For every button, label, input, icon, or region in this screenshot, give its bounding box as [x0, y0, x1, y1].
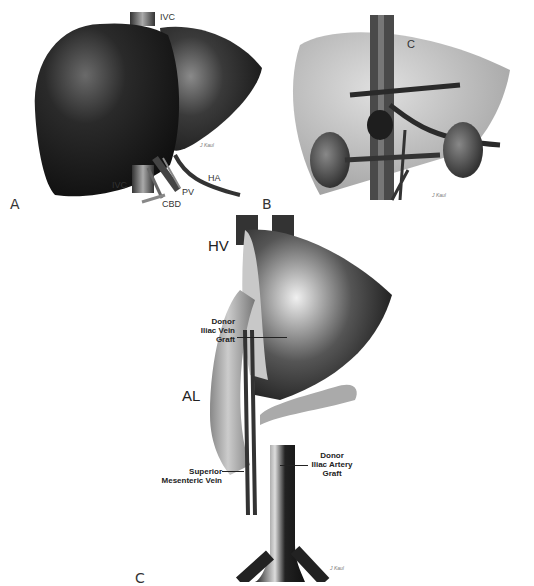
label-ivc-top: IVC	[160, 12, 175, 22]
liver-illustration-b	[270, 0, 534, 215]
signature-c: J Kaul	[330, 565, 344, 571]
panel-a: IVC IVC PV HA CBD J Kaul A	[0, 0, 270, 215]
panel-b: C J Kaul B	[270, 0, 534, 215]
signature-b: J Kaul	[432, 192, 446, 198]
label-ivc-bottom: IVC	[112, 180, 127, 190]
label-donor-iliac-artery-graft: Donor Iliac Artery Graft	[302, 451, 362, 478]
label-cbd: CBD	[162, 199, 181, 209]
leader-line-smv	[222, 471, 244, 472]
label-pv: PV	[182, 187, 194, 197]
label-superior-mesenteric-vein: Superior Mesenteric Vein	[130, 467, 222, 485]
panel-letter-c: C	[135, 570, 145, 586]
leader-line-vein-graft	[237, 337, 287, 338]
liver-transplant-illustration-c	[130, 215, 430, 582]
label-c-caudate: C	[407, 38, 415, 50]
leader-line-artery-graft	[280, 465, 308, 466]
signature-a: J Kaul	[200, 142, 214, 148]
label-hv: HV	[208, 237, 229, 254]
label-al: AL	[182, 387, 200, 404]
liver-illustration-a	[0, 0, 270, 215]
panel-letter-a: A	[10, 196, 20, 212]
label-donor-iliac-vein-graft: Donor Iliac Vein Graft	[185, 317, 235, 344]
panel-letter-b: B	[262, 196, 272, 212]
label-ha: HA	[208, 173, 221, 183]
panel-c: HV AL Donor Iliac Vein Graft Superior Me…	[130, 215, 430, 582]
